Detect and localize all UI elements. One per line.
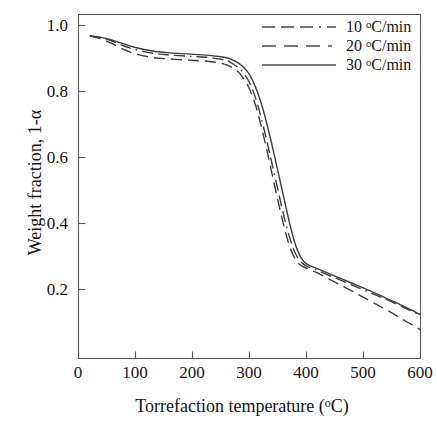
legend-unit-30: C/min [371,56,411,73]
legend-line-solid-icon [262,58,336,72]
data-series-layer [90,36,421,330]
y-tick-label: 1.0 [22,16,68,36]
legend-value-20: 20 [346,37,366,54]
series-line-30 [90,36,421,315]
series-line-10 [90,36,421,316]
legend-line-dashed-icon [262,39,336,53]
legend-label-10: 10 oC/min [336,18,411,36]
legend-item-20: 20 oC/min [262,36,422,55]
x-tick-label: 400 [279,363,333,383]
x-tick-label: 0 [51,363,105,383]
x-tick-label: 100 [108,363,162,383]
y-axis-title: Weight fraction, 1-α [25,63,46,303]
x-axis-title-text: Torrefaction temperature ( [135,396,325,416]
x-axis-title: Torrefaction temperature (oC) [62,396,422,417]
y-axis-title-text: Weight fraction, 1- [25,119,45,255]
legend-value-30: 30 [346,56,366,73]
x-tick-label: 600 [393,363,437,383]
x-axis-title-suffix: C) [331,396,349,416]
legend-label-20: 20 oC/min [336,37,411,55]
legend-unit-10: C/min [371,18,411,35]
legend-item-30: 30 oC/min [262,55,422,74]
series-line-20 [90,36,421,330]
x-axis-ticks [79,352,421,359]
x-tick-label: 200 [165,363,219,383]
legend-unit-20: C/min [371,37,411,54]
y-axis-ticks [79,26,86,290]
alpha-symbol: α [25,110,45,119]
legend: 10 oC/min 20 oC/min 30 oC/min [262,17,422,74]
x-tick-label: 300 [222,363,276,383]
legend-label-30: 30 oC/min [336,56,411,74]
x-tick-label: 500 [336,363,390,383]
legend-value-10: 10 [346,18,366,35]
legend-item-10: 10 oC/min [262,17,422,36]
legend-line-dash-dot-icon [262,20,336,34]
